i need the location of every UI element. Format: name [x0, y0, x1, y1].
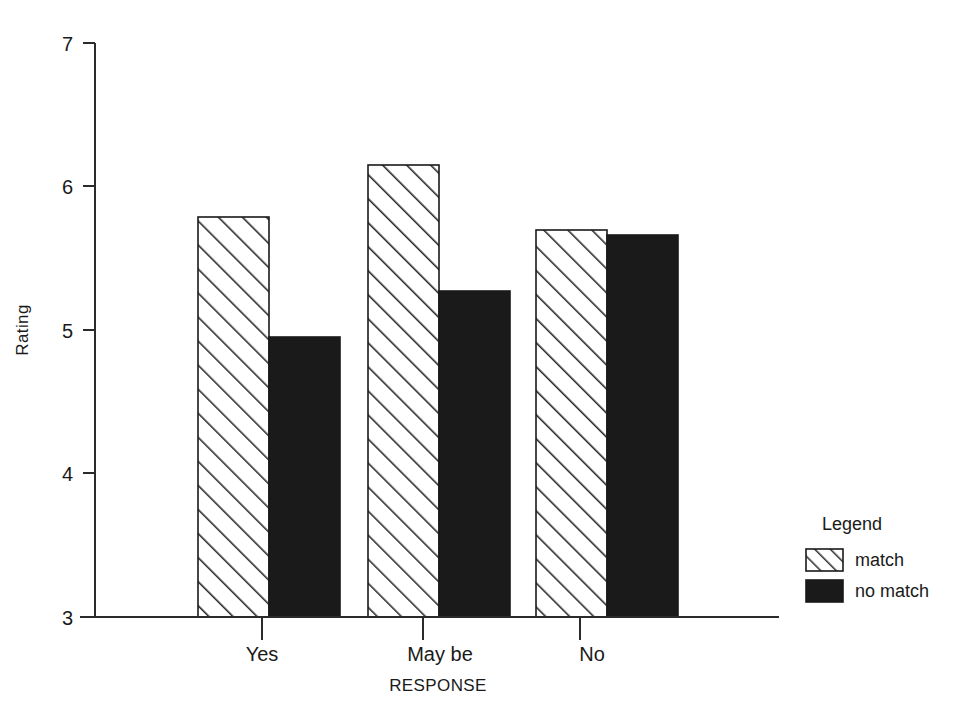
legend-entry-match[interactable]: match: [806, 549, 904, 571]
y-axis-title: Rating: [13, 304, 32, 356]
bar-yes-no-match: [269, 337, 340, 617]
bar-maybe-no-match: [439, 291, 510, 617]
legend-swatch-hatched-icon: [806, 549, 843, 571]
y-tick-label: 4: [62, 463, 73, 485]
y-tick-label: 5: [62, 320, 73, 342]
legend-title: Legend: [822, 514, 882, 534]
bar-yes-match: [198, 217, 269, 617]
bar-no-no-match: [607, 235, 678, 617]
y-tick-label: 7: [62, 33, 73, 55]
legend-label-match: match: [855, 550, 904, 570]
bar-no-match: [536, 230, 607, 617]
x-tick-label: Yes: [246, 643, 279, 665]
x-axis-title: RESPONSE: [389, 676, 487, 695]
legend-entry-no-match[interactable]: no match: [806, 580, 929, 602]
chart-canvas: 7 6 5 4 3 Rating: [0, 0, 963, 710]
bar-chart: 7 6 5 4 3 Rating: [0, 0, 963, 710]
y-tick-label: 6: [62, 176, 73, 198]
bar-maybe-match: [368, 165, 439, 617]
x-tick-label: May be: [407, 643, 473, 665]
y-tick-label: 3: [62, 607, 73, 629]
x-tick-label: No: [579, 643, 605, 665]
legend-label-no-match: no match: [855, 581, 929, 601]
legend-swatch-solid-icon: [806, 580, 843, 602]
